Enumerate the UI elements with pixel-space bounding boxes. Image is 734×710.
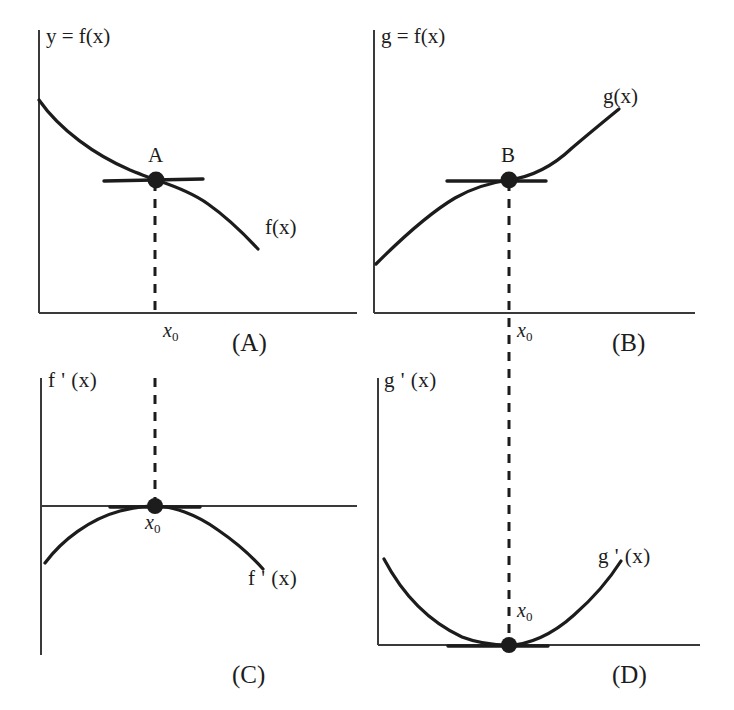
panel-d-point-marker — [501, 637, 517, 653]
panel-c-axis-label: f ' (x) — [48, 370, 97, 391]
panel-d-axis-label: g ' (x) — [384, 370, 437, 391]
panel-a-point-label: A — [148, 145, 163, 166]
panel-a-axis-label: y = f(x) — [46, 26, 110, 47]
panel-a-curve-label: f(x) — [265, 217, 296, 238]
panel-b-curve-g — [376, 109, 619, 264]
panel-c-curve-label: f ' (x) — [248, 568, 297, 589]
panel-d-curve-g-prime — [384, 559, 621, 645]
panel-a-panel-label: (A) — [232, 330, 267, 355]
panel-d-x0-label: x0 — [517, 600, 532, 620]
panel-a-curve-f — [39, 100, 258, 249]
panel-d-panel-label: (D) — [612, 662, 647, 687]
panel-b-point-marker — [501, 172, 518, 189]
panel-b-axis-label: g = f(x) — [381, 26, 445, 47]
panel-c-panel-label: (C) — [232, 662, 265, 687]
panel-d-graphics — [378, 378, 700, 653]
panel-a-x0-label: x0 — [163, 320, 178, 340]
panel-c-graphics — [41, 378, 357, 655]
panel-d-curve-label: g ' (x) — [598, 546, 651, 567]
panel-b-point-label: B — [501, 145, 515, 166]
panel-a-point-marker — [148, 172, 165, 189]
panel-c-x0-label: x0 — [145, 512, 160, 532]
calculus-four-panel-figure: y = f(x) A f(x) x0 (A) g = f(x) B g(x) x… — [0, 0, 734, 710]
panel-b-curve-label: g(x) — [603, 86, 638, 107]
panel-a-graphics — [39, 30, 357, 313]
panel-b-panel-label: (B) — [612, 330, 645, 355]
panel-b-x0-label: x0 — [517, 320, 532, 340]
